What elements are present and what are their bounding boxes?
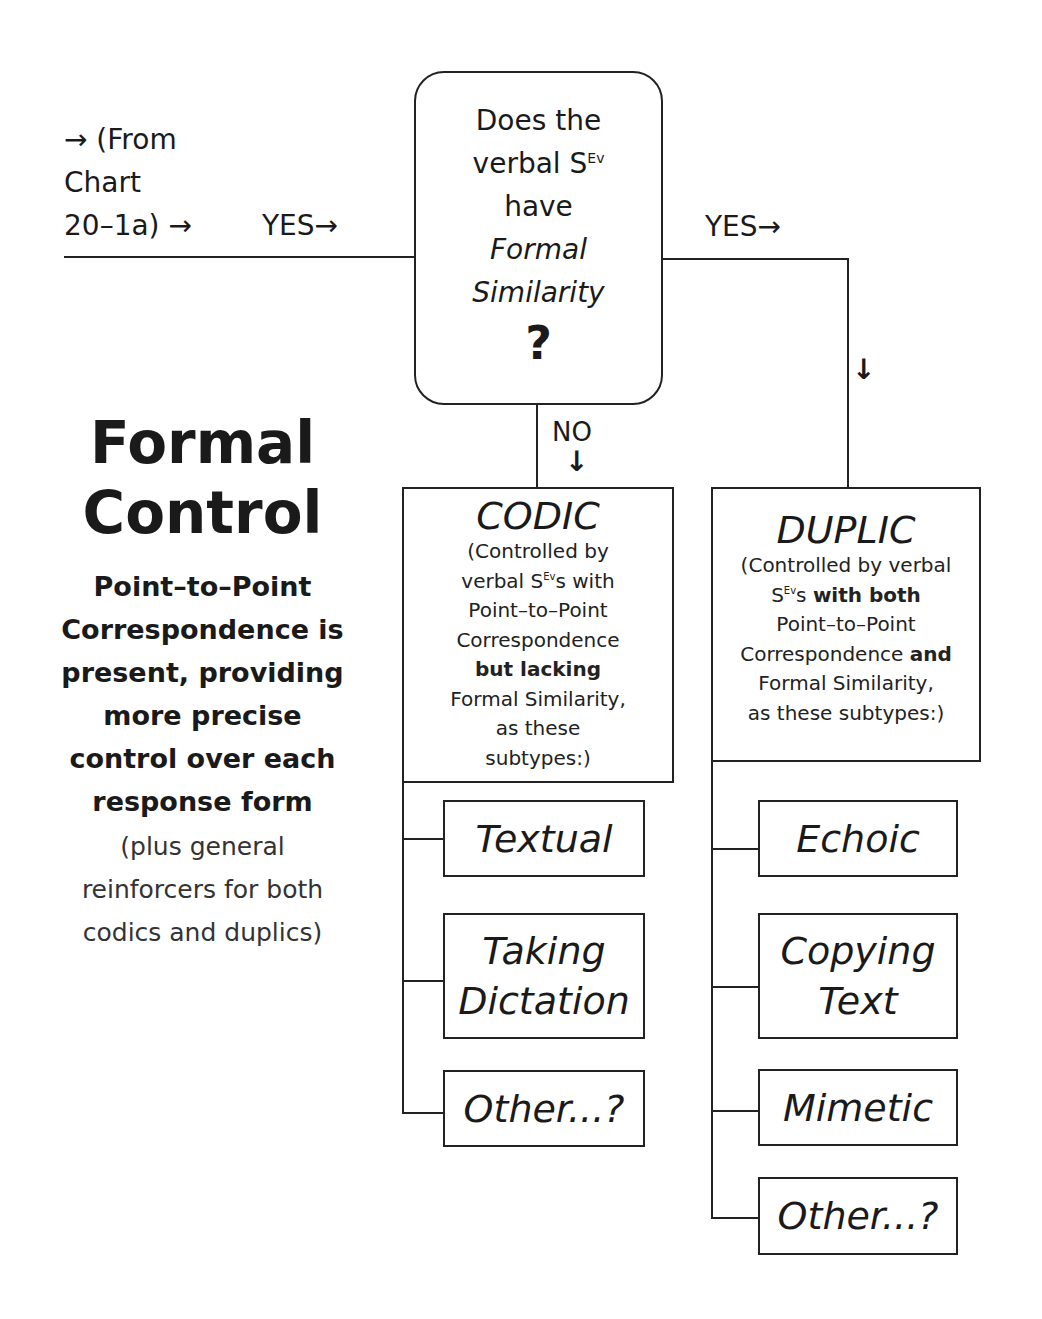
desc-text: s with	[555, 569, 614, 593]
note-line: (plus general	[50, 825, 355, 868]
duplic-title: DUPLIC	[713, 509, 979, 551]
body-line: more precise	[50, 694, 355, 737]
subtype-echoic: Echoic	[758, 800, 958, 877]
duplic-tree-trunk	[711, 760, 713, 1219]
desc-line: SEvs with both	[719, 581, 973, 611]
yes-down-arrow-icon: ↓	[852, 352, 875, 388]
subtype-textual: Textual	[443, 800, 645, 877]
subtype-mimetic: Mimetic	[758, 1069, 958, 1146]
desc-sup: Ev	[543, 571, 555, 582]
entry-line-2: Chart	[64, 161, 192, 204]
desc-line: Correspondence and	[719, 640, 973, 670]
decision-box-formal-similarity: Does the verbal SEv have Formal Similari…	[414, 71, 663, 405]
body-line: Point–to–Point	[50, 565, 355, 608]
desc-bold: and	[910, 642, 952, 666]
subtype-taking-dictation: Taking Dictation	[443, 913, 645, 1039]
desc-line: Correspondence	[410, 626, 666, 656]
codic-box: CODIC (Controlled by verbal SEvs with Po…	[402, 487, 674, 783]
title-line-2: Control	[50, 478, 355, 548]
duplic-description: (Controlled by verbal SEvs with both Poi…	[713, 551, 979, 728]
desc-text: S	[771, 583, 784, 607]
no-down-line	[536, 405, 538, 488]
title-line-1: Formal	[50, 408, 355, 478]
subtype-duplic-other: Other...?	[758, 1177, 958, 1255]
yes-right-down-line	[847, 258, 849, 488]
no-down-arrow-icon: ↓	[565, 444, 588, 480]
subtype-label: Other...?	[464, 1084, 625, 1134]
question-line-5: Similarity	[416, 271, 661, 314]
desc-line-bold: but lacking	[410, 655, 666, 685]
desc-bold: with both	[813, 583, 921, 607]
codic-branch-textual	[402, 838, 444, 840]
note-line: reinforcers for both	[50, 868, 355, 911]
body-line: response form	[50, 780, 355, 823]
codic-tree-trunk	[402, 781, 404, 1114]
subtype-copying-text: Copying Text	[758, 913, 958, 1039]
subtype-label: Echoic	[796, 814, 920, 864]
question-line-3: have	[416, 185, 661, 228]
desc-line: Point–to–Point	[410, 596, 666, 626]
subtype-label: Mimetic	[783, 1083, 933, 1133]
body-line: control over each	[50, 737, 355, 780]
entry-line-1: → (From	[64, 118, 192, 161]
yes-right-label: YES→	[705, 205, 781, 248]
desc-line: Point–to–Point	[719, 610, 973, 640]
desc-line: subtypes:)	[410, 744, 666, 774]
subtype-label: Textual	[475, 814, 612, 864]
duplic-box: DUPLIC (Controlled by verbal SEvs with b…	[711, 487, 981, 762]
duplic-branch-other	[711, 1217, 759, 1219]
formal-control-title: Formal Control	[50, 408, 355, 548]
desc-line: as these	[410, 714, 666, 744]
subtype-label: Taking	[482, 926, 605, 976]
subtype-label: Copying	[780, 926, 935, 976]
desc-line: Formal Similarity,	[410, 685, 666, 715]
subtype-label: Other...?	[778, 1191, 939, 1241]
duplic-branch-copying	[711, 986, 759, 988]
formal-control-note: (plus general reinforcers for both codic…	[50, 825, 355, 954]
desc-line: as these subtypes:)	[719, 699, 973, 729]
desc-text: Correspondence	[740, 642, 910, 666]
yes-left-label: YES→	[262, 204, 338, 247]
entry-connector-line	[64, 256, 414, 258]
codic-title: CODIC	[404, 495, 672, 537]
duplic-branch-mimetic	[711, 1110, 759, 1112]
body-line: present, providing	[50, 651, 355, 694]
question-sup-ev: Ev	[587, 150, 604, 166]
duplic-branch-echoic	[711, 848, 759, 850]
question-mark-icon: ?	[416, 318, 661, 368]
note-line: codics and duplics)	[50, 911, 355, 954]
desc-text: verbal S	[461, 569, 543, 593]
entry-line-3: 20–1a) →	[64, 204, 192, 247]
desc-line: verbal SEvs with	[410, 567, 666, 597]
yes-right-connector-line	[663, 258, 849, 260]
codic-branch-other	[402, 1112, 444, 1114]
question-verbal-s: verbal S	[473, 147, 588, 180]
question-line-1: Does the	[416, 99, 661, 142]
question-text: Does the verbal SEv have Formal Similari…	[416, 99, 661, 314]
subtype-label: Dictation	[458, 976, 630, 1026]
subtype-codic-other: Other...?	[443, 1070, 645, 1147]
desc-line: (Controlled by	[410, 537, 666, 567]
entry-from-chart-label: → (From Chart 20–1a) →	[64, 118, 192, 247]
formal-control-description: Point–to–Point Correspondence is present…	[50, 565, 355, 823]
body-line: Correspondence is	[50, 608, 355, 651]
codic-description: (Controlled by verbal SEvs with Point–to…	[404, 537, 672, 773]
desc-line: Formal Similarity,	[719, 669, 973, 699]
desc-line: (Controlled by verbal	[719, 551, 973, 581]
desc-text: s	[796, 583, 813, 607]
question-line-4: Formal	[416, 228, 661, 271]
codic-branch-dictation	[402, 980, 444, 982]
desc-sup: Ev	[784, 585, 796, 596]
question-line-2: verbal SEv	[416, 142, 661, 185]
subtype-label: Text	[818, 976, 897, 1026]
